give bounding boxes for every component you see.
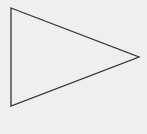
triangle-diagram <box>0 0 147 134</box>
triangle-shape <box>11 8 139 106</box>
diagram-canvas <box>0 0 147 134</box>
